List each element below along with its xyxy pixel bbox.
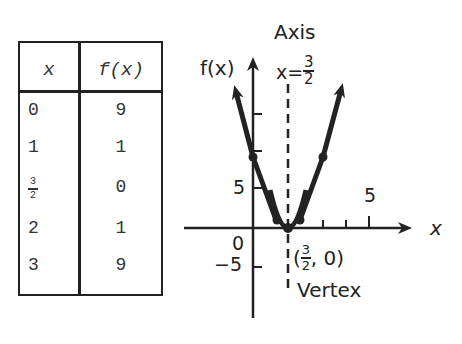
- parabola-right-segment: [300, 157, 323, 220]
- y-ticks: [253, 114, 262, 267]
- origin-label: 0: [232, 234, 244, 253]
- point-0-9: [249, 153, 258, 162]
- axis-equation: x= 3 2: [276, 60, 314, 86]
- point-3-9: [319, 153, 328, 162]
- y-axis-label: f(x): [200, 58, 234, 78]
- vertex-den: 2: [302, 260, 310, 272]
- vertex-open-paren: (: [293, 248, 301, 268]
- point-1-1: [273, 216, 282, 225]
- y-tick-label-5: 5: [233, 178, 245, 197]
- vertex-coordinates: ( 3 2 , 0): [293, 244, 344, 272]
- point-vertex: [283, 223, 293, 233]
- vertex-close: , 0): [311, 248, 344, 268]
- vertex-fraction: 3 2: [301, 244, 311, 272]
- x-tick-label-5: 5: [364, 186, 376, 205]
- point-2-1: [296, 216, 305, 225]
- axis-eq-den: 2: [304, 73, 314, 86]
- parabola-left-arm: [236, 92, 253, 157]
- x-axis-label: x: [430, 218, 442, 238]
- axis-eq-num: 3: [304, 56, 314, 69]
- axis-eq-fraction: 3 2: [303, 56, 314, 86]
- axis-title: Axis: [274, 22, 316, 42]
- parabola-right-arm: [323, 90, 341, 157]
- vertex-label: Vertex: [297, 280, 361, 300]
- y-tick-label-neg5: −5: [214, 255, 242, 274]
- axis-eq-prefix: x=: [276, 63, 303, 82]
- vertex-num: 3: [302, 244, 310, 256]
- parabola-graph: [0, 0, 462, 344]
- x-ticks: [323, 216, 369, 228]
